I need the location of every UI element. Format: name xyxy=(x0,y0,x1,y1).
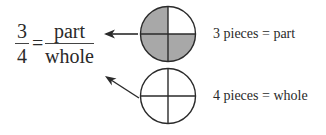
whole-circle-icon xyxy=(141,69,196,124)
whole-label: 4 pieces = whole xyxy=(213,88,308,104)
arrow-left-icon xyxy=(104,30,138,39)
arrow-diagonal-icon xyxy=(105,76,139,98)
part-label: 3 pieces = part xyxy=(213,26,295,42)
part-circle-icon xyxy=(141,7,196,62)
diagram-graphics xyxy=(0,0,326,135)
